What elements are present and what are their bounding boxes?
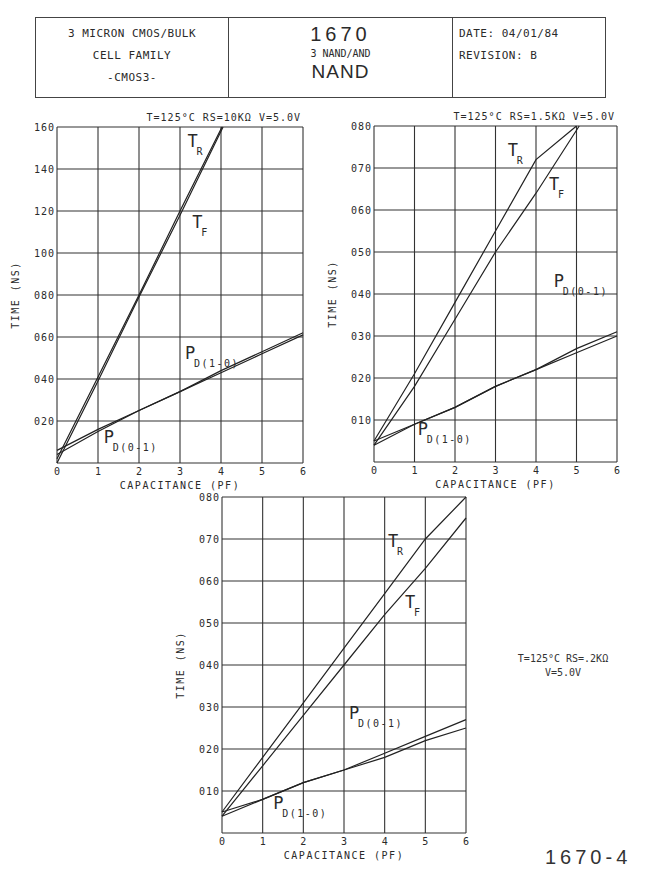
- chart-title: T=125°C RS=1.5KΩ V=5.0V: [454, 111, 615, 122]
- y-tick-label: 080: [199, 492, 220, 503]
- series-label-subscript: D(0-1): [563, 286, 608, 297]
- series-label-subscript: F: [558, 189, 566, 200]
- series-label-subscript: R: [397, 546, 405, 557]
- y-tick-label: 040: [351, 289, 372, 300]
- y-tick-label: 020: [34, 416, 55, 427]
- series-label-subscript: F: [414, 607, 422, 618]
- y-axis-label: TIME (NS): [10, 261, 21, 329]
- series-label-subscript: D(0-1): [358, 718, 403, 729]
- y-tick-label: 050: [199, 618, 220, 629]
- series-label-subscript: D(1-0): [427, 434, 472, 445]
- x-tick-label: 1: [411, 465, 417, 476]
- series-label-subscript: D(0-1): [113, 442, 158, 453]
- x-tick-label: 3: [177, 466, 183, 477]
- x-tick-label: 5: [422, 836, 428, 847]
- y-tick-label: 160: [34, 122, 55, 133]
- y-tick-label: 070: [351, 163, 372, 174]
- x-tick-label: 6: [614, 465, 620, 476]
- y-tick-label: 120: [34, 206, 55, 217]
- chart3-conditions: T=125°C RS=.2KΩ V=5.0V: [488, 652, 638, 680]
- y-tick-label: 060: [34, 332, 55, 343]
- x-tick-label: 0: [54, 466, 60, 477]
- x-tick-label: 4: [533, 465, 539, 476]
- x-tick-label: 6: [300, 466, 306, 477]
- y-axis-label: TIME (NS): [327, 260, 338, 328]
- y-tick-label: 100: [34, 248, 55, 259]
- y-tick-label: 030: [351, 331, 372, 342]
- y-tick-label: 060: [199, 576, 220, 587]
- x-axis-label: CAPACITANCE (PF): [284, 850, 404, 861]
- series-line-tr: [374, 126, 577, 441]
- y-tick-label: 040: [34, 374, 55, 385]
- x-tick-label: 4: [382, 836, 388, 847]
- y-tick-label: 140: [34, 164, 55, 175]
- x-tick-label: 0: [219, 836, 225, 847]
- chart3-conditions-line1: T=125°C RS=.2KΩ: [488, 652, 638, 666]
- chart-title: T=125°C RS=10KΩ V=5.0V: [147, 112, 301, 123]
- y-tick-label: 040: [199, 660, 220, 671]
- x-tick-label: 1: [260, 836, 266, 847]
- y-tick-label: 020: [199, 744, 220, 755]
- x-tick-label: 4: [218, 466, 224, 477]
- x-tick-label: 3: [341, 836, 347, 847]
- x-tick-label: 3: [492, 465, 498, 476]
- x-tick-label: 2: [300, 836, 306, 847]
- y-tick-label: 080: [34, 290, 55, 301]
- y-tick-label: 030: [199, 702, 220, 713]
- y-tick-label: 050: [351, 247, 372, 258]
- x-tick-label: 6: [463, 836, 469, 847]
- series-label-subscript: R: [517, 155, 525, 166]
- series-label-subscript: F: [201, 227, 209, 238]
- y-tick-label: 010: [199, 786, 220, 797]
- x-tick-label: 0: [371, 465, 377, 476]
- x-tick-label: 5: [573, 465, 579, 476]
- x-tick-label: 5: [259, 466, 265, 477]
- series-label-subscript: D(1-0): [282, 808, 327, 819]
- y-tick-label: 010: [351, 415, 372, 426]
- x-tick-label: 1: [95, 466, 101, 477]
- y-tick-label: 020: [351, 373, 372, 384]
- y-axis-label: TIME (NS): [175, 631, 186, 699]
- series-label-subscript: R: [196, 146, 204, 157]
- x-axis-label: CAPACITANCE (PF): [120, 480, 240, 491]
- x-tick-label: 2: [452, 465, 458, 476]
- chart3-conditions-line2: V=5.0V: [488, 666, 638, 680]
- y-tick-label: 070: [199, 534, 220, 545]
- figure-id: 1670-4: [545, 846, 631, 869]
- x-axis-label: CAPACITANCE (PF): [435, 479, 555, 490]
- x-tick-label: 2: [136, 466, 142, 477]
- y-tick-label: 060: [351, 205, 372, 216]
- y-tick-label: 080: [351, 121, 372, 132]
- charts-canvas: 0123456020040060080100120140160CAPACITAN…: [0, 0, 651, 884]
